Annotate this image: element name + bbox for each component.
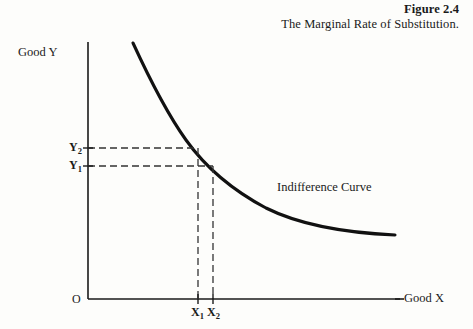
indifference-curve-path	[133, 43, 395, 235]
origin-label: O	[72, 292, 81, 307]
tick-label-x2: X2	[207, 305, 220, 321]
tick-label-y1-sub: 1	[78, 164, 82, 174]
tick-label-y2-text: Y	[69, 140, 78, 154]
tick-label-x2-text: X	[207, 305, 216, 319]
tick-label-x1-sub: 1	[200, 311, 204, 321]
tick-label-x1-text: X	[191, 305, 200, 319]
tick-label-x2-sub: 2	[216, 311, 220, 321]
figure-container: Figure 2.4 The Marginal Rate of Substitu…	[0, 0, 473, 329]
x-axis-label: Good X	[404, 291, 444, 306]
tick-label-y2-sub: 2	[78, 146, 82, 156]
indifference-curve-label: Indifference Curve	[277, 180, 372, 195]
tick-label-y1-text: Y	[69, 158, 78, 172]
tick-label-y2: Y2	[69, 140, 82, 156]
tick-label-y1: Y1	[69, 158, 82, 174]
tick-label-x1: X1	[191, 305, 204, 321]
y-axis-label: Good Y	[18, 45, 57, 60]
